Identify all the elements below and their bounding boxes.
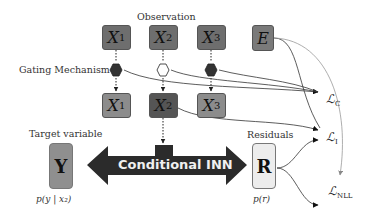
target-variable-node: Y xyxy=(49,143,73,189)
extra-node-e: E xyxy=(252,25,274,51)
gate-curves xyxy=(124,38,320,205)
target-variable-label: Target variable xyxy=(29,128,102,139)
gate-hexagon-1 xyxy=(110,64,122,76)
gate-hexagon-2 xyxy=(157,64,169,76)
gating-hexagons xyxy=(110,64,217,76)
loss-nll: ℒNLL xyxy=(328,184,352,200)
gating-mechanism-label: Gating Mechanism xyxy=(19,64,110,75)
residuals-label: Residuals xyxy=(247,129,293,140)
observation-node-x1: X1 xyxy=(102,25,131,50)
target-probability: p(y | x₂) xyxy=(36,194,71,204)
gated-node-x1: X1 xyxy=(102,93,131,118)
residual-node: R xyxy=(252,143,276,189)
gate-hexagon-3 xyxy=(205,64,217,76)
conditional-inn-label: Conditional INN xyxy=(118,157,233,172)
observation-label: Observation xyxy=(137,11,196,22)
gated-node-x2: X2 xyxy=(149,93,178,118)
gated-node-x3: X3 xyxy=(197,93,226,118)
observation-node-x3: X3 xyxy=(197,25,226,50)
residual-probability: p(r) xyxy=(253,194,270,204)
loss-independence: ℒI xyxy=(326,130,338,146)
observation-node-x2: X2 xyxy=(149,25,178,50)
loss-consistency: ℒC xyxy=(326,92,340,108)
